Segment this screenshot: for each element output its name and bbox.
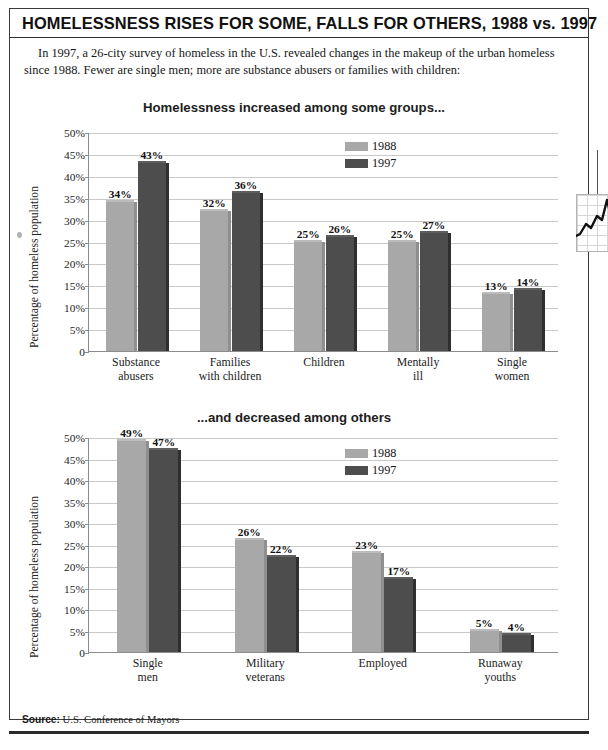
y-axis-tick-label: 25% (64, 540, 85, 552)
x-axis-category-label: Substance abusers (89, 356, 183, 383)
bar-1988: 34% (106, 202, 135, 351)
source-label: Source: (22, 714, 60, 725)
chart-increased: Homelessness increased among some groups… (0, 100, 588, 390)
legend-item-1988: 1988 (345, 138, 396, 155)
y-tick-mark (85, 330, 89, 331)
y-tick-mark (85, 243, 89, 244)
bar-1988: 49% (117, 441, 146, 652)
bar-value-label: 32% (203, 197, 226, 209)
chart-title: Homelessness increased among some groups… (0, 100, 588, 115)
bar-1997: 22% (267, 557, 296, 652)
y-tick-mark (85, 610, 89, 611)
y-tick-mark (85, 524, 89, 525)
y-axis-tick-label: 5% (70, 324, 85, 336)
bar-1997: 26% (326, 237, 355, 351)
y-axis-tick-label: 50% (64, 432, 85, 444)
plot-area: 05%10%15%20%25%30%35%40%45%50%34%43%Subs… (88, 133, 558, 352)
y-tick-mark (85, 199, 89, 200)
legend-label-1997: 1997 (372, 463, 396, 478)
source-text: U.S. Conference of Mayors (63, 714, 180, 725)
x-axis-category-label: Single men (89, 657, 207, 684)
x-axis-category-label: Children (277, 356, 371, 370)
bar-value-label: 27% (422, 219, 445, 231)
legend-item-1997: 1997 (345, 155, 396, 172)
y-tick-mark (85, 567, 89, 568)
x-axis-category-label: Runaway youths (442, 657, 560, 684)
bottom-divider (9, 731, 589, 734)
y-axis-tick-label: 15% (64, 583, 85, 595)
y-tick-mark (85, 177, 89, 178)
y-axis-tick-label: 35% (64, 497, 85, 509)
bar-value-label: 43% (140, 149, 163, 161)
bar-1988: 5% (470, 631, 499, 653)
y-axis-tick-label: 25% (64, 237, 85, 249)
y-axis-tick-label: 5% (70, 626, 85, 638)
bar-1988: 25% (294, 242, 323, 352)
y-tick-mark (85, 632, 89, 633)
bar-value-label: 49% (120, 427, 143, 439)
y-tick-mark (85, 460, 89, 461)
legend-swatch-1997-icon (345, 466, 368, 475)
bar-value-label: 25% (391, 228, 414, 240)
bar-1997: 43% (138, 163, 167, 351)
y-axis-tick-label: 45% (64, 149, 85, 161)
page-border-right-edge (588, 8, 589, 720)
bar-1988: 13% (482, 294, 511, 351)
bar-1988: 25% (388, 242, 417, 352)
y-tick-mark (85, 155, 89, 156)
title-divider (10, 37, 588, 38)
bar-value-label: 25% (297, 228, 320, 240)
bar-value-label: 17% (387, 565, 410, 577)
plot-area: 05%10%15%20%25%30%35%40%45%50%49%47%Sing… (88, 438, 558, 653)
bar-1997: 4% (502, 635, 531, 652)
y-axis-tick-label: 40% (64, 475, 85, 487)
bar-1988: 32% (200, 211, 229, 351)
y-axis-tick-label: 45% (64, 454, 85, 466)
y-axis-tick-label: 15% (64, 280, 85, 292)
x-axis-category-label: Military veterans (207, 657, 325, 684)
chart-y-axis-label: Percentage of homeless population (28, 186, 41, 348)
y-tick-mark (85, 221, 89, 222)
y-tick-mark (85, 503, 89, 504)
chart-legend: 1988 1997 (345, 445, 396, 479)
bar-value-label: 23% (355, 539, 378, 551)
x-axis-category-label: Mentally ill (371, 356, 465, 383)
bar-1997: 47% (149, 450, 178, 652)
x-axis-category-label: Single women (465, 356, 559, 383)
chart-legend: 1988 1997 (345, 138, 396, 172)
legend-swatch-1997-icon (345, 159, 368, 168)
y-axis-tick-label: 20% (64, 561, 85, 573)
source-note: Source: U.S. Conference of Mayors (22, 714, 179, 725)
bar-1997: 17% (384, 579, 413, 652)
legend-item-1988: 1988 (345, 445, 396, 462)
y-axis-tick-label: 10% (64, 302, 85, 314)
bar-value-label: 47% (152, 436, 175, 448)
y-axis-tick-label: 30% (64, 215, 85, 227)
bar-value-label: 36% (234, 179, 257, 191)
y-tick-mark (85, 286, 89, 287)
y-axis-tick-label: 10% (64, 604, 85, 616)
y-axis-tick-label: 50% (64, 127, 85, 139)
bar-1988: 23% (352, 553, 381, 652)
y-axis-tick-label: 0 (79, 346, 85, 358)
y-tick-mark (85, 264, 89, 265)
y-tick-mark (85, 308, 89, 309)
chart-decreased: ...and decreased among others Percentage… (0, 410, 588, 690)
bar-value-label: 26% (238, 526, 261, 538)
x-axis-category-label: Employed (324, 657, 442, 671)
legend-label-1988: 1988 (372, 139, 396, 154)
y-axis-tick-label: 20% (64, 258, 85, 270)
x-axis-category-label: Families with children (183, 356, 277, 383)
bar-1988: 26% (235, 540, 264, 652)
bar-value-label: 26% (328, 223, 351, 235)
bar-1997: 36% (232, 193, 261, 351)
bar-value-label: 34% (109, 188, 132, 200)
y-tick-mark (85, 653, 89, 654)
y-tick-mark (85, 589, 89, 590)
y-tick-mark (85, 352, 89, 353)
chart-y-axis-label: Percentage of homeless population (28, 496, 41, 658)
bar-value-label: 4% (508, 621, 525, 633)
bar-value-label: 22% (270, 543, 293, 555)
intro-paragraph: In 1997, a 26-city survey of homeless in… (24, 45, 576, 78)
y-axis-tick-label: 40% (64, 171, 85, 183)
